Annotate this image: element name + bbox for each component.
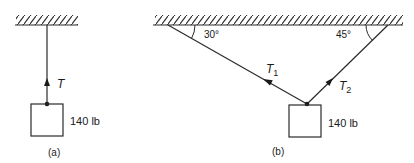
ceiling-a — [15, 15, 78, 25]
tension-arrow-a-icon — [44, 78, 50, 86]
tension-arrow-t1-icon — [263, 79, 273, 86]
tension-label-a: T — [57, 77, 66, 91]
angle-label-30: 30° — [204, 29, 219, 40]
weight-label-a: 140 lb — [70, 115, 100, 127]
tension-label-t2-sub: 2 — [346, 85, 351, 95]
weight-label-b: 140 lb — [328, 117, 358, 129]
tension-label-t1-sub: 1 — [273, 68, 278, 78]
figure-a: T 140 lb (a) — [15, 15, 100, 158]
ceiling-b — [153, 15, 403, 25]
rope-t1 — [168, 25, 307, 104]
figure-b: 30° 45° T1 T2 140 lb (b) — [153, 15, 403, 157]
diagram-canvas: T 140 lb (a) 30° 45° T1 T2 140 lb (b) — [0, 0, 414, 163]
tension-label-t2: T2 — [339, 79, 351, 95]
tension-label-t1: T1 — [266, 62, 278, 78]
angle-arc-45 — [366, 25, 373, 41]
angle-label-45: 45° — [336, 29, 351, 40]
caption-a: (a) — [48, 147, 60, 158]
weight-box-a — [31, 104, 63, 136]
caption-b: (b) — [272, 146, 284, 157]
junction-dot-b — [305, 102, 310, 107]
angle-arc-30 — [192, 25, 196, 39]
weight-box-b — [289, 105, 321, 137]
